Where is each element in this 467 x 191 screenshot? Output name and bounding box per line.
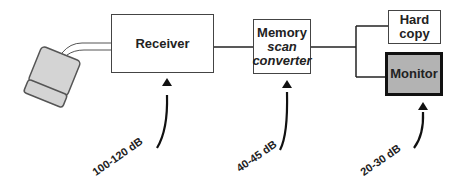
- memory-label: Memory: [257, 26, 307, 40]
- arrow-receiver: [157, 95, 167, 148]
- arrow-monitor: [414, 112, 423, 148]
- monitor-block: Monitor: [385, 52, 443, 96]
- scan-label: scan: [267, 40, 297, 54]
- hard-copy-block: Hard copy: [388, 10, 441, 44]
- receiver-block: Receiver: [111, 14, 214, 73]
- arrow-memory: [280, 92, 287, 150]
- transducer-probe-icon: [23, 46, 81, 108]
- converter-label: converter: [252, 54, 311, 68]
- copy-label: copy: [399, 27, 429, 41]
- memory-scan-converter-block: Memory scan converter: [253, 19, 311, 74]
- hard-label: Hard: [400, 13, 430, 27]
- receiver-label: Receiver: [135, 37, 189, 51]
- monitor-label: Monitor: [390, 67, 438, 81]
